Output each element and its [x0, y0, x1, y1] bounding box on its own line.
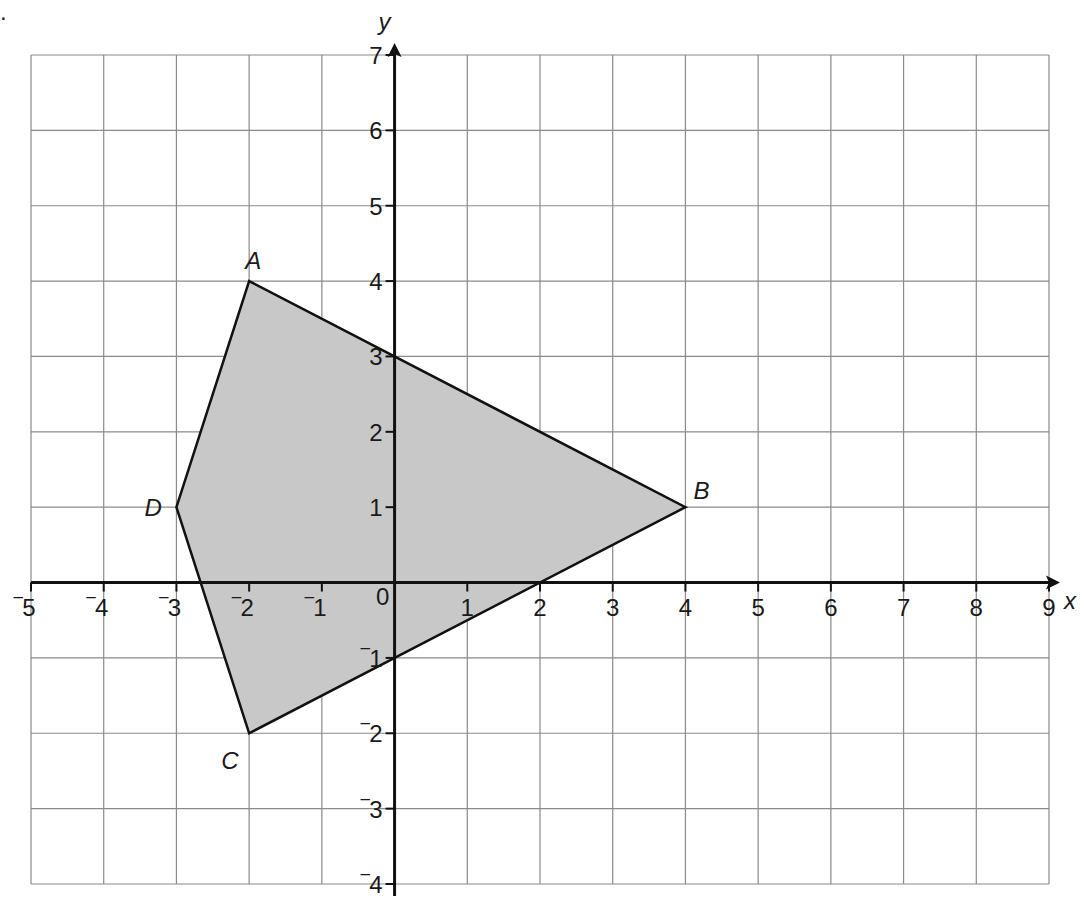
y-tick-label: ‾2 — [360, 720, 382, 747]
x-tick-label: ‾5 — [13, 594, 35, 621]
y-tick-label: ‾1 — [360, 645, 382, 672]
x-tick-label: 3 — [606, 594, 619, 621]
vertex-label-d: D — [144, 494, 161, 521]
y-axis-label: y — [377, 8, 393, 35]
y-tick-label: 4 — [369, 268, 382, 295]
y-tick-label: 5 — [369, 193, 382, 220]
vertex-label-b: B — [693, 477, 709, 504]
polygon-abcd — [176, 281, 685, 733]
x-tick-label: 0 — [376, 583, 389, 610]
question-marker: . — [0, 0, 7, 25]
vertex-label-c: C — [221, 747, 239, 774]
x-tick-label: 1 — [461, 594, 474, 621]
x-axis-label: x — [1063, 587, 1077, 614]
y-tick-label: ‾4 — [360, 871, 382, 898]
x-tick-label: 4 — [679, 594, 692, 621]
vertex-label-a: A — [243, 247, 261, 274]
x-tick-label: 7 — [897, 594, 910, 621]
x-tick-label: ‾3 — [159, 594, 181, 621]
x-tick-label: ‾1 — [304, 594, 326, 621]
y-tick-label: ‾3 — [360, 796, 382, 823]
y-tick-label: 1 — [369, 494, 382, 521]
x-tick-label: ‾4 — [86, 594, 108, 621]
polygon-shape — [176, 281, 685, 733]
x-tick-label: 5 — [751, 594, 764, 621]
x-tick-label: 8 — [970, 594, 983, 621]
x-tick-label: ‾2 — [231, 594, 253, 621]
x-tick-label: 2 — [533, 594, 546, 621]
y-tick-label: 3 — [369, 343, 382, 370]
x-tick-label: 6 — [824, 594, 837, 621]
y-tick-label: 2 — [369, 419, 382, 446]
x-tick-label: 9 — [1042, 594, 1055, 621]
y-tick-label: 7 — [369, 42, 382, 69]
y-tick-label: 6 — [369, 117, 382, 144]
coordinate-grid-chart: . ‾5‾4‾3‾2‾10123456789‾4‾3‾2‾11234567 AB… — [0, 0, 1085, 901]
